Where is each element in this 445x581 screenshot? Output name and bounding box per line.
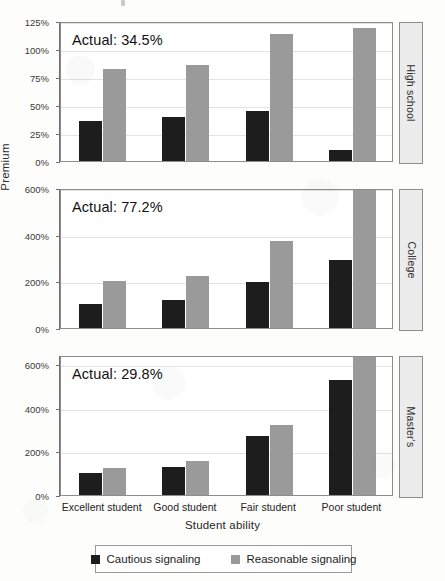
panel-high-school: Actual: 34.5% <box>60 22 393 162</box>
bar-cautious <box>162 467 185 495</box>
gridline <box>61 23 392 24</box>
bar-reasonable <box>186 276 209 329</box>
bar-reasonable <box>103 281 126 328</box>
y-tick-label: 0% <box>0 157 49 168</box>
strip-label-text: High school <box>405 64 417 121</box>
y-tick-label: 200% <box>0 277 49 288</box>
bar-cautious <box>246 111 269 161</box>
y-axis-line <box>59 189 60 329</box>
bar-reasonable <box>270 34 293 161</box>
bar-cautious <box>79 473 102 495</box>
bar-reasonable <box>353 28 376 161</box>
panel-master-s: Actual: 29.8% <box>60 356 393 496</box>
bar-reasonable <box>270 425 293 495</box>
faceted-bar-chart: Premium Actual: 34.5%Actual: 77.2%Actual… <box>0 0 445 581</box>
bar-cautious <box>329 380 352 495</box>
chart-legend: Cautious signalingReasonable signaling <box>95 545 352 573</box>
bar-cautious <box>79 121 102 161</box>
bar-reasonable <box>103 468 126 495</box>
bar-reasonable <box>186 65 209 161</box>
legend-swatch-reasonable <box>231 555 240 564</box>
y-tick-label: 75% <box>0 73 49 84</box>
scan-speck <box>121 0 125 6</box>
gridline <box>61 237 392 238</box>
legend-item: Cautious signaling <box>91 553 201 565</box>
x-tick-label: Good student <box>153 501 216 513</box>
x-tick-label: Excellent student <box>62 501 142 513</box>
y-tick-label: 400% <box>0 403 49 414</box>
panel-strip-label: High school <box>399 22 423 164</box>
panel-strip-label: Master's <box>399 356 423 498</box>
y-tick <box>56 329 60 330</box>
y-tick-label: 125% <box>0 17 49 28</box>
y-tick-label: 100% <box>0 45 49 56</box>
legend-item: Reasonable signaling <box>231 553 357 565</box>
panel-strip-label: College <box>399 189 423 331</box>
bar-cautious <box>329 260 352 328</box>
bar-cautious <box>246 436 269 495</box>
strip-label-text: Master's <box>405 407 417 448</box>
gridline <box>61 51 392 52</box>
bar-cautious <box>162 300 185 328</box>
y-tick-label: 0% <box>0 324 49 335</box>
y-tick-label: 600% <box>0 184 49 195</box>
x-axis-title: Student ability <box>0 519 445 531</box>
bar-reasonable <box>270 241 293 328</box>
bar-cautious <box>329 150 352 161</box>
x-tick-label: Fair student <box>240 501 295 513</box>
y-tick-label: 400% <box>0 230 49 241</box>
y-axis-line <box>59 22 60 162</box>
y-tick <box>56 496 60 497</box>
bar-cautious <box>79 304 102 329</box>
y-tick-label: 50% <box>0 101 49 112</box>
panel-college: Actual: 77.2% <box>60 189 393 329</box>
legend-label: Reasonable signaling <box>247 553 357 565</box>
y-tick <box>56 162 60 163</box>
strip-label-text: College <box>405 241 417 278</box>
y-axis-line <box>59 356 60 496</box>
actual-annotation: Actual: 29.8% <box>72 366 163 382</box>
bar-reasonable <box>186 461 209 495</box>
bar-reasonable <box>103 69 126 161</box>
legend-swatch-cautious <box>91 555 100 564</box>
gridline <box>61 190 392 191</box>
legend-label: Cautious signaling <box>107 553 201 565</box>
actual-annotation: Actual: 77.2% <box>72 199 163 215</box>
bar-reasonable <box>353 356 376 495</box>
bar-cautious <box>246 282 269 328</box>
y-tick-label: 0% <box>0 491 49 502</box>
bar-reasonable <box>353 189 376 328</box>
actual-annotation: Actual: 34.5% <box>72 32 163 48</box>
y-tick-label: 200% <box>0 447 49 458</box>
x-tick-label: Poor student <box>322 501 382 513</box>
y-tick-label: 600% <box>0 359 49 370</box>
bar-cautious <box>162 117 185 161</box>
y-tick-label: 25% <box>0 129 49 140</box>
